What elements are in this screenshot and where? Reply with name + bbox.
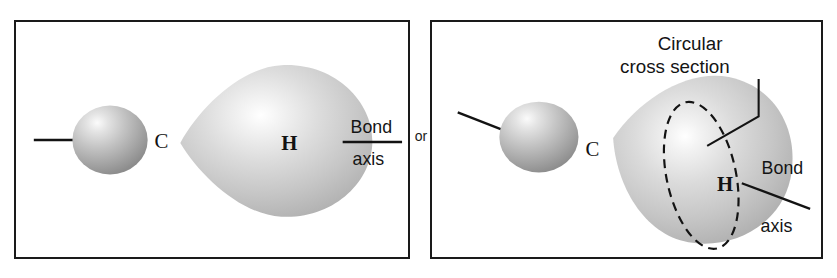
carbon-orbital-sphere	[499, 102, 578, 173]
figure-root: C H Bond axis or	[0, 0, 837, 278]
bond-axis-label-line1: Bond	[351, 117, 393, 137]
perspective-view-panel: C Circular cross section H Bond axis	[430, 20, 823, 259]
bond-axis-label-line2: axis	[761, 216, 793, 236]
side-view-panel: C H Bond axis	[14, 20, 410, 259]
carbon-orbital-sphere	[72, 106, 147, 175]
hydrogen-label: H	[281, 132, 297, 154]
or-connector-label: or	[412, 128, 430, 144]
cross-section-label-line2: cross section	[620, 56, 730, 77]
carbon-label: C	[585, 138, 599, 160]
bond-axis-label-line2: axis	[353, 149, 385, 169]
carbon-label: C	[155, 130, 169, 152]
hydrogen-label: H	[717, 173, 733, 195]
bond-axis-label-line1: Bond	[762, 158, 804, 178]
side-view-illustration: C H Bond axis	[16, 22, 408, 257]
perspective-view-illustration: C Circular cross section H Bond axis	[432, 22, 821, 257]
cross-section-label-line1: Circular	[658, 33, 723, 54]
carbon-substituent-bond-line	[458, 112, 504, 130]
